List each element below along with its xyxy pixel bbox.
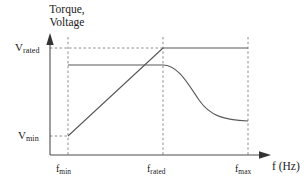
series-torque-curve	[68, 65, 248, 121]
y-tick-label-vmin: Vmin	[18, 129, 39, 141]
x-tick-frated-subscript: rated	[150, 167, 165, 176]
x-tick-label-fmax: fmax	[235, 163, 251, 174]
y-tick-label-vrated: Vrated	[15, 41, 40, 53]
chart-figure: Torque, Voltage Vrated Vmin fmin frated …	[0, 0, 308, 190]
y-tick-vrated-symbol: V	[15, 41, 23, 53]
x-axis-title: f (Hz)	[272, 160, 300, 173]
y-tick-vrated-subscript: rated	[23, 46, 40, 55]
series-voltage-curve	[68, 48, 248, 136]
y-axis-title: Torque, Voltage	[30, 3, 104, 29]
x-tick-label-frated: frated	[147, 163, 166, 174]
x-tick-label-fmin: fmin	[56, 163, 71, 174]
x-axis-arrow-icon	[259, 151, 271, 158]
x-tick-fmin-subscript: min	[59, 167, 71, 176]
y-tick-vmin-subscript: min	[26, 134, 39, 143]
y-axis-title-line1: Torque,	[30, 3, 104, 16]
y-axis-arrow-icon	[46, 33, 53, 45]
y-tick-vmin-symbol: V	[18, 129, 26, 141]
y-axis-title-line2: Voltage	[30, 16, 104, 29]
x-tick-fmax-subscript: max	[238, 167, 251, 176]
